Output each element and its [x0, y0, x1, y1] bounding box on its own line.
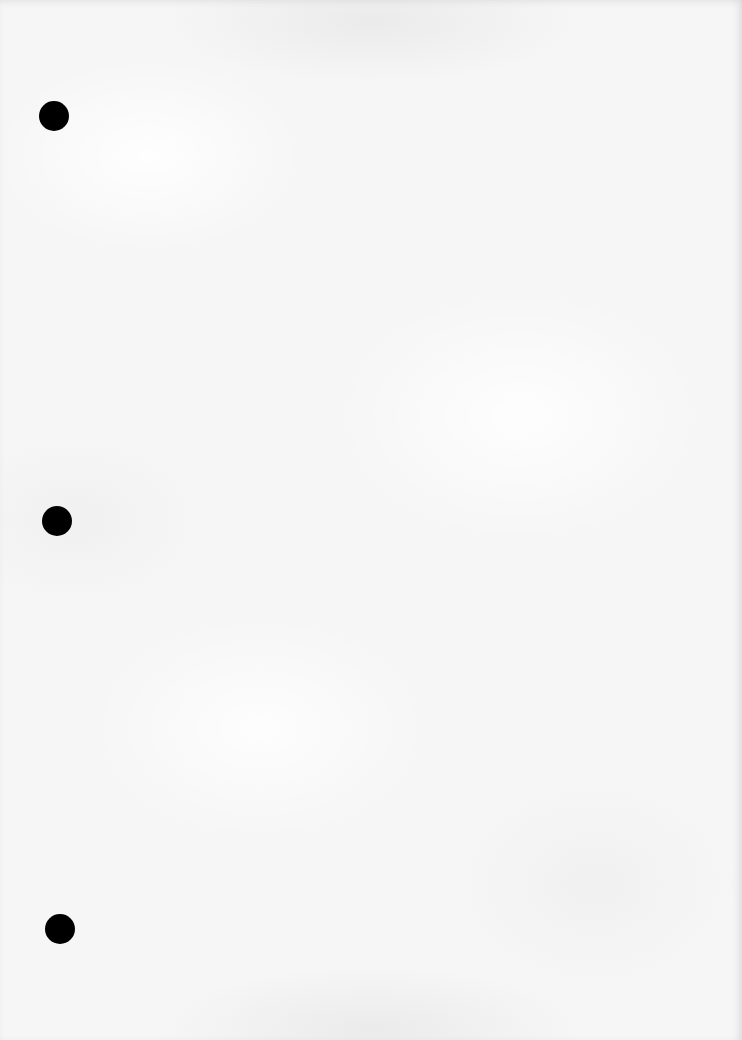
- punch-hole-bottom: [45, 914, 75, 944]
- blank-paper-sheet: [0, 0, 742, 1040]
- punch-hole-top: [39, 101, 69, 131]
- punch-hole-middle: [42, 506, 72, 536]
